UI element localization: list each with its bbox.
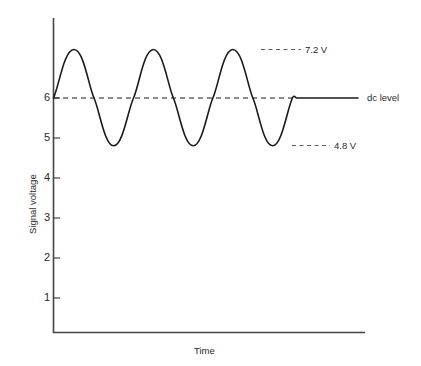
chart-figure: 6 5 4 3 2 1 7.2 V dc level 4.8 V Signal … [0, 0, 421, 366]
y-tick-label-5: 5 [36, 132, 50, 143]
y-tick-label-2: 2 [36, 252, 50, 263]
trough-annotation-label: 4.8 V [334, 141, 356, 151]
x-axis-title: Time [194, 346, 215, 356]
y-tick-label-3: 3 [36, 212, 50, 223]
y-axis-ticks [54, 98, 61, 298]
dc-level-annotation-label: dc level [367, 93, 399, 103]
y-tick-label-1: 1 [36, 292, 50, 303]
chart-plot-area [0, 0, 421, 366]
peak-annotation-label: 7.2 V [305, 45, 327, 55]
y-tick-label-4: 4 [36, 172, 50, 183]
y-axis-title: Signal voltage [28, 174, 38, 234]
y-tick-label-6: 6 [36, 92, 50, 103]
